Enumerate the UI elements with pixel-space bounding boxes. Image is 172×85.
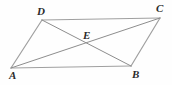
side-AB-line <box>11 66 131 68</box>
side-BC-line <box>131 18 160 66</box>
parallelogram-diagonals <box>11 18 160 68</box>
vertex-label-A: A <box>9 70 16 81</box>
side-CD-line <box>42 18 160 20</box>
vertex-label-C: C <box>156 3 163 14</box>
vertex-label-E: E <box>83 30 90 41</box>
diagonal-BD-line <box>42 20 131 66</box>
side-DA-line <box>11 20 42 68</box>
geometry-figure: A B C D E <box>0 0 172 85</box>
parallelogram-diagram <box>0 0 172 85</box>
vertex-label-D: D <box>37 6 45 17</box>
vertex-label-B: B <box>132 69 139 80</box>
